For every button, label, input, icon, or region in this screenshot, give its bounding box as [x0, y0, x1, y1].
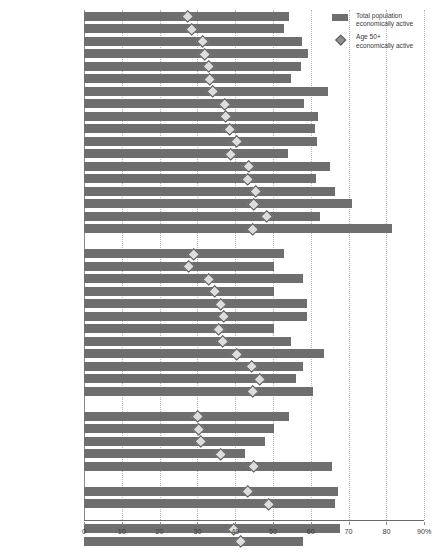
- bar-total-population: [84, 537, 303, 546]
- bar-total-population: [84, 274, 303, 283]
- x-tick-label-0: 0: [64, 527, 104, 536]
- legend-line-2: economically active: [356, 42, 436, 50]
- legend-line-2: economically active: [356, 20, 436, 28]
- chart-row: [84, 485, 424, 498]
- bar-total-population: [84, 74, 291, 83]
- chart-row: [84, 285, 424, 298]
- chart-row: [84, 260, 424, 273]
- x-tick-label-80: 80: [366, 527, 406, 536]
- chart-row: [84, 148, 424, 161]
- x-tick-90: [424, 522, 425, 525]
- chart-row: [84, 73, 424, 86]
- x-tick-10: [122, 522, 123, 525]
- chart-row: [84, 460, 424, 473]
- bar-total-population: [84, 337, 291, 346]
- chart-row: [84, 310, 424, 323]
- bar-total-population: [84, 49, 308, 58]
- chart-row: [84, 223, 424, 236]
- chart-row: [84, 210, 424, 223]
- bar-total-population: [84, 349, 324, 358]
- x-tick-label-20: 20: [140, 527, 180, 536]
- x-tick-20: [160, 522, 161, 525]
- chart-row: [84, 198, 424, 211]
- x-tick-label-40: 40: [215, 527, 255, 536]
- chart-row: [84, 360, 424, 373]
- bar-total-population: [84, 424, 274, 433]
- legend-item-age-50-plus: Age 50+ economically active: [332, 33, 436, 49]
- bar-total-population: [84, 174, 316, 183]
- chart-row: [84, 348, 424, 361]
- x-tick-label-30: 30: [177, 527, 217, 536]
- chart-row: [84, 435, 424, 448]
- chart-legend: Total population economically active Age…: [332, 12, 436, 55]
- bar-total-population: [84, 262, 274, 271]
- bar-total-population: [84, 162, 330, 171]
- chart-row: [84, 85, 424, 98]
- legend-line-1: Age 50+: [356, 33, 436, 41]
- chart-row: [84, 185, 424, 198]
- chart-row: [84, 373, 424, 386]
- bar-total-population: [84, 387, 313, 396]
- bar-total-population: [84, 437, 265, 446]
- bar-total-population: [84, 187, 335, 196]
- bar-total-population: [84, 212, 320, 221]
- plot-area: BelgiumItalyFranceAustriaSpainGreeceNeth…: [84, 10, 424, 520]
- bar-total-population: [84, 324, 274, 333]
- x-tick-30: [197, 522, 198, 525]
- bar-total-population: [84, 149, 288, 158]
- chart-row: [84, 335, 424, 348]
- bar-total-population: [84, 137, 317, 146]
- chart-row: [84, 423, 424, 436]
- chart-row: [84, 173, 424, 186]
- bar-total-population: [84, 362, 303, 371]
- legend-label-age-50-plus: Age 50+ economically active: [356, 33, 436, 49]
- bar-total-population: [84, 99, 304, 108]
- x-tick-40: [235, 522, 236, 525]
- bar-total-population: [84, 224, 392, 233]
- x-tick-label-10: 10: [102, 527, 142, 536]
- bar-total-population: [84, 112, 318, 121]
- chart-row: [84, 298, 424, 311]
- bar-total-population: [84, 312, 307, 321]
- bar-total-population: [84, 499, 335, 508]
- legend-item-total-population: Total population economically active: [332, 12, 436, 28]
- chart-row: [84, 498, 424, 511]
- x-tick-0: [84, 522, 85, 525]
- chart-row: [84, 248, 424, 261]
- bar-swatch-icon: [332, 14, 348, 21]
- x-tick-label-50: 50: [253, 527, 293, 536]
- chart-row: [84, 535, 424, 548]
- bar-total-population: [84, 37, 302, 46]
- chart-row: [84, 123, 424, 136]
- chart-row: [84, 160, 424, 173]
- bar-total-population: [84, 287, 274, 296]
- chart-row: [84, 323, 424, 336]
- chart-row: [84, 448, 424, 461]
- bar-total-population: [84, 124, 315, 133]
- chart-row: [84, 98, 424, 111]
- chart-row: [84, 385, 424, 398]
- bar-total-population: [84, 249, 284, 258]
- chart-row: [84, 110, 424, 123]
- bar-total-population: [84, 199, 352, 208]
- bar-total-population: [84, 487, 338, 496]
- x-axis-line: [84, 520, 424, 521]
- gridline-90: [424, 10, 426, 520]
- bar-total-population: [84, 412, 289, 421]
- x-tick-label-70: 70: [329, 527, 369, 536]
- x-tick-label-90: 90%: [404, 527, 437, 536]
- chart-row: [84, 410, 424, 423]
- chart-row: [84, 135, 424, 148]
- bar-total-population: [84, 462, 332, 471]
- bar-chart: BelgiumItalyFranceAustriaSpainGreeceNeth…: [0, 0, 437, 552]
- x-tick-70: [349, 522, 350, 525]
- legend-line-1: Total population: [356, 12, 436, 20]
- x-tick-60: [311, 522, 312, 525]
- x-tick-80: [386, 522, 387, 525]
- legend-label-total-population: Total population economically active: [356, 12, 436, 28]
- diamond-marker-icon: [335, 35, 346, 46]
- bar-total-population: [84, 62, 301, 71]
- bar-total-population: [84, 24, 284, 33]
- x-tick-50: [273, 522, 274, 525]
- bar-total-population: [84, 299, 307, 308]
